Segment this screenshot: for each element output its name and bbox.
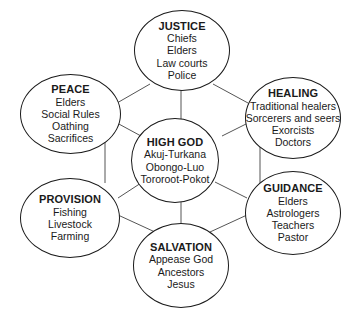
- node-item: Tororoot-Pokot: [141, 173, 210, 185]
- node-title: HIGH GOD: [147, 136, 203, 148]
- line-provision-salvation: [118, 215, 155, 232]
- node-healing: HEALING Traditional healers Sorcerers an…: [245, 77, 341, 159]
- node-title: JUSTICE: [158, 20, 205, 32]
- node-item: Oathing: [52, 120, 89, 132]
- line-justice-healing: [213, 84, 248, 103]
- line-guidance-highgod: [215, 182, 247, 198]
- node-item: Farming: [51, 230, 90, 242]
- line-peace-highgod: [117, 123, 141, 136]
- node-provision: PROVISION Fishing Livestock Farming: [20, 178, 120, 258]
- line-healing-highgod: [222, 123, 248, 136]
- node-peace: PEACE Elders Social Rules Oathing Sacrif…: [20, 74, 121, 154]
- node-item: Pastor: [278, 231, 308, 243]
- node-item: Law courts: [157, 57, 208, 69]
- node-title: PROVISION: [39, 193, 101, 205]
- node-item: Jesus: [167, 278, 194, 290]
- node-title: SALVATION: [150, 241, 212, 253]
- node-item: Livestock: [48, 218, 92, 230]
- node-item: Akuj-Turkana: [144, 148, 206, 160]
- node-item: Sorcerers and seers: [246, 112, 341, 124]
- node-item: Chiefs: [167, 32, 197, 44]
- node-item: Teachers: [272, 219, 315, 231]
- node-item: Traditional healers: [250, 100, 336, 112]
- line-provision-highgod: [118, 183, 141, 198]
- node-item: Astrologers: [266, 207, 319, 219]
- node-item: Social Rules: [41, 108, 99, 120]
- line-guidance-salvation: [210, 215, 247, 232]
- node-item: Elders: [167, 44, 197, 56]
- node-item: Fishing: [53, 206, 87, 218]
- node-title: PEACE: [51, 83, 89, 95]
- node-high-god: HIGH GOD Akuj-Turkana Obongo-Luo Tororoo…: [131, 118, 219, 203]
- node-item: Sacrifices: [48, 132, 94, 144]
- node-item: Police: [168, 69, 197, 81]
- line-justice-peace: [117, 84, 150, 103]
- node-title: HEALING: [268, 87, 318, 99]
- node-guidance: GUIDANCE Elders Astrologers Teachers Pas…: [245, 171, 341, 255]
- node-item: Elders: [278, 195, 308, 207]
- node-item: Ancestors: [158, 266, 205, 278]
- node-item: Exorcists: [272, 124, 315, 136]
- node-item: Doctors: [275, 136, 311, 148]
- node-title: GUIDANCE: [263, 182, 322, 194]
- node-item: Obongo-Luo: [146, 161, 204, 173]
- node-salvation: SALVATION Appease God Ancestors Jesus: [133, 223, 229, 308]
- node-item: Elders: [56, 96, 86, 108]
- node-item: Appease God: [149, 253, 213, 265]
- node-justice: JUSTICE Chiefs Elders Law courts Police: [134, 10, 230, 91]
